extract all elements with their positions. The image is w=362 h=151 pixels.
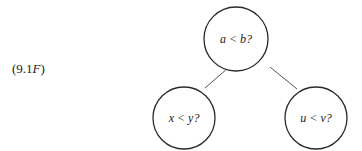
edge-root-left: [205, 68, 228, 88]
tree-node-left: x < y?: [153, 87, 215, 149]
decision-tree: a < b? x < y? u < v?: [0, 0, 362, 151]
node-label: u < v?: [300, 111, 331, 125]
node-label: a < b?: [220, 32, 252, 46]
node-label: x < y?: [168, 111, 200, 125]
edge-root-right: [270, 67, 297, 89]
tree-node-root: a < b?: [204, 7, 268, 71]
tree-node-right: u < v?: [285, 87, 347, 149]
